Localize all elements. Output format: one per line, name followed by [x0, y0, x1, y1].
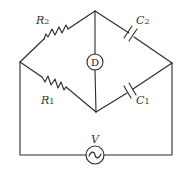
resistor-r1 [20, 62, 96, 112]
label-c1: C1 [136, 94, 150, 107]
label-r2: R2 [35, 14, 49, 27]
label-r1: R1 [40, 94, 54, 107]
capacitor-c2 [95, 11, 172, 63]
label-c2: C2 [136, 14, 150, 27]
label-d: D [91, 57, 99, 68]
capacitor-c1 [96, 63, 172, 112]
bridge-circuit-diagram: R2 R1 C2 C1 D V [0, 0, 181, 172]
label-v: V [91, 133, 100, 146]
resistor-r2 [20, 11, 95, 62]
ac-wave-icon [89, 152, 101, 158]
